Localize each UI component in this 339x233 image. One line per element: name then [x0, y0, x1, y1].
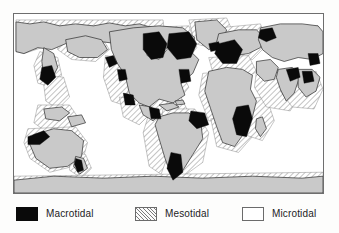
- map-legend: Macrotidal Mesotidal Microtidal: [13, 203, 324, 227]
- map-panel: [13, 13, 324, 194]
- microtidal-swatch-icon: [242, 207, 264, 221]
- tidal-range-world-map-figure: Macrotidal Mesotidal Microtidal: [0, 0, 339, 233]
- world-map-graphic: [14, 14, 323, 193]
- macrotidal-swatch-icon: [16, 207, 38, 221]
- legend-label-mesotidal: Mesotidal: [165, 209, 209, 219]
- legend-item-mesotidal: Mesotidal: [135, 203, 209, 225]
- legend-label-microtidal: Microtidal: [272, 209, 316, 219]
- mesotidal-swatch-icon: [135, 207, 157, 221]
- legend-item-macrotidal: Macrotidal: [16, 203, 94, 225]
- legend-label-macrotidal: Macrotidal: [46, 209, 94, 219]
- legend-item-microtidal: Microtidal: [242, 203, 316, 225]
